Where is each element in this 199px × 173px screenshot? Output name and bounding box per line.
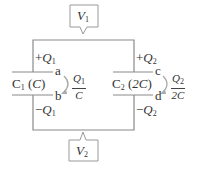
- denominator: C: [75, 89, 82, 101]
- v2-subscript: 2: [84, 150, 88, 159]
- symbol: Q: [42, 50, 51, 65]
- c1-top-charge: +Q1: [35, 51, 56, 66]
- denominator: 2C: [172, 89, 185, 101]
- num-subscript: 2: [180, 77, 184, 86]
- numerator: Q1: [72, 72, 86, 89]
- c2-bottom-charge: −Q2: [136, 103, 157, 118]
- v1-symbol: V: [77, 8, 85, 23]
- num-symbol: Q: [172, 72, 180, 84]
- index: 2: [121, 83, 125, 92]
- c2-top-charge: +Q2: [136, 51, 157, 66]
- index: 1: [21, 83, 25, 92]
- c1-voltage-fraction: Q1 C: [72, 72, 86, 101]
- num-symbol: Q: [73, 72, 81, 84]
- node-c: c: [155, 64, 161, 77]
- v1-subscript: 1: [85, 15, 89, 24]
- c1-label: C1 (C): [12, 77, 45, 92]
- node-b: b: [55, 89, 62, 102]
- name: C: [112, 76, 121, 91]
- v1-label: V1: [77, 9, 89, 24]
- symbol: Q: [42, 102, 51, 117]
- node-d: d: [155, 89, 162, 102]
- node-a: a: [55, 64, 61, 77]
- c2-voltage-fraction: Q2 2C: [171, 72, 185, 101]
- value: 2C: [132, 76, 147, 91]
- subscript: 1: [52, 109, 56, 118]
- c1-bottom-charge: −Q1: [35, 103, 56, 118]
- name: C: [12, 76, 21, 91]
- value: C: [32, 76, 41, 91]
- numerator: Q2: [171, 72, 185, 89]
- subscript: 2: [153, 109, 157, 118]
- c2-label: C2 (2C): [112, 77, 152, 92]
- symbol: Q: [143, 102, 152, 117]
- num-subscript: 1: [81, 77, 85, 86]
- v2-symbol: V: [76, 143, 84, 158]
- symbol: Q: [143, 50, 152, 65]
- v2-label: V2: [76, 144, 88, 159]
